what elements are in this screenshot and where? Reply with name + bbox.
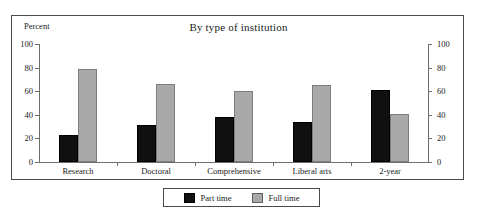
- legend-label: Part time: [201, 193, 232, 203]
- y-axis-right-line: [428, 44, 429, 162]
- bar-doctoral-full-time: [156, 84, 175, 162]
- x-axis-group-tick: [195, 162, 196, 166]
- bar-comprehensive-part-time: [215, 117, 234, 162]
- bar-2-year-full-time: [390, 114, 409, 162]
- y-axis-right-tick-label: 0: [437, 158, 441, 167]
- y-axis-left-tick: [35, 138, 39, 139]
- plot-area: 002020404060608080100100 ResearchDoctora…: [39, 44, 429, 162]
- chart-figure: By type of institution Percent 002020404…: [0, 0, 482, 218]
- y-axis-left-tick: [35, 115, 39, 116]
- y-axis-left-tick: [35, 44, 39, 45]
- legend-swatch-icon: [252, 193, 263, 203]
- bar-research-part-time: [59, 135, 78, 162]
- y-axis-right-tick-label: 20: [437, 134, 446, 143]
- legend-label: Full time: [269, 193, 300, 203]
- y-axis-left-tick-label: 100: [20, 40, 33, 49]
- category-label-research: Research: [62, 166, 93, 176]
- y-axis-left-tick: [35, 162, 39, 163]
- y-axis-left-tick-label: 80: [25, 64, 34, 73]
- category-label-2-year: 2-year: [379, 166, 401, 176]
- y-axis-right-tick: [428, 115, 432, 116]
- y-axis-right-tick: [428, 68, 432, 69]
- category-label-doctoral: Doctoral: [141, 166, 171, 176]
- y-axis-right-tick-label: 40: [437, 111, 446, 120]
- y-axis-right-tick-label: 60: [437, 87, 446, 96]
- bar-liberal-arts-part-time: [293, 122, 312, 162]
- bar-research-full-time: [78, 69, 97, 162]
- legend-swatch-icon: [184, 193, 195, 203]
- y-axis-left-tick-label: 0: [29, 158, 33, 167]
- category-label-liberal-arts: Liberal arts: [293, 166, 332, 176]
- y-axis-left-line: [39, 44, 40, 162]
- y-axis-right-tick: [428, 44, 432, 45]
- chart-frame: By type of institution Percent 002020404…: [11, 15, 464, 180]
- bar-liberal-arts-full-time: [312, 85, 331, 162]
- bar-doctoral-part-time: [137, 125, 156, 162]
- bar-comprehensive-full-time: [234, 91, 253, 162]
- y-axis-left-tick: [35, 91, 39, 92]
- y-axis-left-tick-label: 20: [25, 134, 34, 143]
- y-axis-unit-label: Percent: [24, 21, 50, 31]
- x-axis-group-tick: [351, 162, 352, 166]
- x-axis-baseline: [38, 162, 430, 163]
- chart-title: By type of institution: [12, 21, 465, 33]
- y-axis-left-tick-label: 40: [25, 111, 34, 120]
- chart-legend: Part timeFull time: [163, 188, 320, 207]
- y-axis-right-tick-label: 100: [437, 40, 450, 49]
- bar-2-year-part-time: [371, 90, 390, 162]
- x-axis-group-tick: [273, 162, 274, 166]
- legend-item-part-time[interactable]: Part time: [184, 193, 232, 203]
- category-label-comprehensive: Comprehensive: [207, 166, 260, 176]
- y-axis-right-tick: [428, 162, 432, 163]
- y-axis-right-tick: [428, 138, 432, 139]
- legend-item-full-time[interactable]: Full time: [252, 193, 300, 203]
- y-axis-right-tick: [428, 91, 432, 92]
- y-axis-left-tick-label: 60: [25, 87, 34, 96]
- y-axis-left-tick: [35, 68, 39, 69]
- y-axis-right-tick-label: 80: [437, 64, 446, 73]
- x-axis-group-tick: [117, 162, 118, 166]
